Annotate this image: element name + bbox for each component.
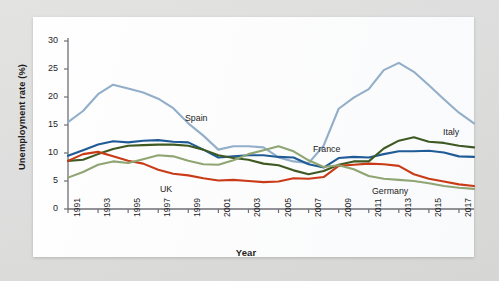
x-tick-label: 1995 [132,198,142,217]
x-tick-label: 2007 [313,198,323,217]
x-tick-label: 1997 [162,198,172,217]
y-tick-label: 10 [36,147,58,157]
x-tick-label: 2011 [373,199,383,217]
series-label-uk: UK [160,184,172,194]
x-tick-label: 1991 [72,198,82,217]
chart-series-lines [68,63,474,189]
x-tick-label: 2015 [433,198,443,217]
line-chart-plot [0,0,499,281]
x-axis-title: Year [206,247,286,258]
series-label-italy: Italy [443,127,459,137]
chart-page: 051015202530 199119931995199719992001200… [0,0,499,281]
series-label-france: France [313,144,340,154]
series-label-spain: Spain [185,113,208,123]
x-tick-label: 2009 [343,198,353,217]
y-tick-label: 20 [36,91,58,101]
y-axis-title: Unemployment rate (%) [17,57,27,177]
y-tick-label: 25 [36,63,58,73]
y-tick-label: 15 [36,119,58,129]
series-label-germany: Germany [372,186,408,196]
chart-axes [64,38,474,213]
y-tick-label: 30 [36,35,58,45]
x-tick-label: 1999 [192,198,202,217]
x-tick-label: 2003 [252,198,262,217]
x-tick-label: 2001 [222,198,232,217]
x-tick-label: 2005 [283,198,293,217]
y-tick-label: 5 [36,175,58,185]
x-tick-label: 2013 [403,198,413,217]
x-tick-label: 1993 [102,198,112,217]
y-tick-label: 0 [36,203,58,213]
x-tick-label: 2017 [463,198,473,217]
